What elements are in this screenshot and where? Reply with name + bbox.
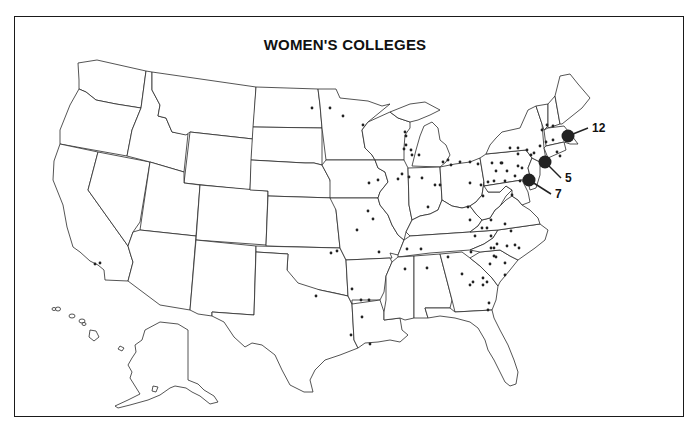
college-dot — [315, 295, 318, 298]
college-dot — [530, 154, 533, 157]
college-dot — [469, 219, 472, 222]
cluster-marker — [562, 130, 575, 143]
college-dot — [491, 162, 494, 165]
college-dot — [477, 163, 480, 166]
college-dot — [377, 179, 380, 182]
college-dot — [362, 124, 365, 127]
college-dot — [556, 151, 559, 154]
college-dot — [486, 227, 489, 230]
college-dot — [526, 149, 529, 152]
college-dot — [481, 227, 484, 230]
college-dot — [439, 184, 442, 187]
college-dot — [403, 148, 406, 151]
college-dot — [330, 252, 333, 255]
college-dot — [378, 251, 381, 254]
college-dot — [545, 141, 548, 144]
college-dot — [421, 177, 424, 180]
college-dot — [405, 135, 408, 138]
college-dot — [99, 262, 102, 265]
college-dot — [517, 153, 520, 156]
college-dot — [488, 302, 491, 305]
college-dot — [470, 251, 473, 254]
college-dot — [401, 173, 404, 176]
college-dot — [504, 223, 507, 226]
state-kansas — [266, 196, 340, 248]
college-dot — [486, 281, 489, 284]
college-dot — [559, 155, 562, 158]
alaska-inset — [115, 322, 218, 408]
state-wyoming — [184, 132, 253, 190]
state-outlines — [53, 60, 590, 392]
state-arizona — [128, 230, 196, 310]
college-dot — [521, 167, 524, 170]
college-dot — [447, 159, 450, 162]
college-dot — [404, 268, 407, 271]
college-dot — [367, 210, 370, 213]
college-dot — [469, 161, 472, 164]
college-dot — [518, 247, 521, 250]
college-dot — [493, 180, 496, 183]
college-dot — [552, 139, 555, 142]
college-dot — [510, 230, 513, 233]
college-dot — [342, 115, 345, 118]
college-dot — [351, 288, 354, 291]
college-dot — [397, 178, 400, 181]
state-arkansas — [346, 258, 392, 304]
college-dot — [539, 145, 542, 148]
cluster-count-label: 5 — [565, 171, 572, 185]
college-dot — [336, 250, 339, 253]
college-dot — [509, 147, 512, 150]
college-dot — [552, 125, 555, 128]
college-dot — [533, 152, 536, 155]
state-florida — [425, 308, 518, 386]
college-dot — [420, 248, 423, 251]
college-dot — [496, 243, 499, 246]
college-dot — [469, 284, 472, 287]
college-dot — [329, 107, 332, 110]
college-dot — [361, 316, 364, 319]
college-dot — [350, 334, 353, 337]
college-dot — [474, 235, 477, 238]
college-cluster: 5 — [539, 156, 573, 186]
college-dot — [469, 182, 472, 185]
college-dot — [511, 194, 514, 197]
college-dot — [459, 161, 462, 164]
hawaii-inset — [52, 307, 99, 341]
college-dot — [487, 309, 490, 312]
college-dot — [504, 274, 507, 277]
college-dot — [406, 248, 409, 251]
college-dot — [356, 229, 359, 232]
college-dot — [514, 175, 517, 178]
cluster-marker — [539, 156, 552, 169]
us-map: 1257 — [0, 0, 690, 424]
college-dot — [434, 184, 437, 187]
college-dot — [450, 164, 453, 167]
college-dot — [493, 247, 496, 250]
college-dot — [482, 195, 485, 198]
college-dot — [94, 263, 97, 266]
cluster-count-label: 7 — [555, 187, 562, 201]
cluster-count-label: 12 — [592, 121, 606, 135]
college-dot — [482, 277, 485, 280]
college-dot — [504, 180, 507, 183]
college-dot — [472, 281, 475, 284]
college-dot — [490, 235, 493, 238]
college-dot — [489, 263, 492, 266]
college-dot — [480, 184, 483, 187]
college-dot — [467, 206, 470, 209]
college-dot — [546, 124, 549, 127]
college-dot — [427, 206, 430, 209]
college-dot — [368, 299, 371, 302]
college-dot — [372, 218, 375, 221]
state-south-dakota — [251, 127, 322, 165]
college-cluster: 12 — [562, 121, 606, 143]
college-dot — [442, 161, 445, 164]
college-dot — [369, 343, 372, 346]
college-dot — [360, 299, 363, 302]
college-dot — [495, 170, 498, 173]
college-dot — [461, 273, 464, 276]
college-dot — [404, 131, 407, 134]
college-dot — [426, 267, 429, 270]
college-dot — [541, 129, 544, 132]
college-dot — [506, 245, 509, 248]
